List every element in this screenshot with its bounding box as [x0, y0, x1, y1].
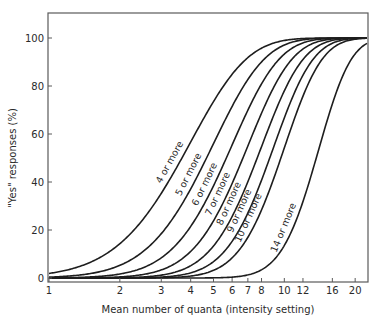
curve-labels: 4 or more5 or more6 or more7 or more8 or… — [153, 139, 298, 254]
x-tick-label: 6 — [229, 285, 235, 296]
x-tick-label: 7 — [245, 285, 251, 296]
y-tick-label: 40 — [31, 177, 44, 188]
x-tick-label: 2 — [117, 285, 123, 296]
y-tick-label: 60 — [31, 129, 44, 140]
x-tick-label: 1 — [46, 285, 52, 296]
curve-14-or-more — [49, 43, 367, 278]
x-tick-label: 10 — [278, 285, 291, 296]
y-tick-label: 80 — [31, 81, 44, 92]
curve-8-or-more — [49, 38, 367, 278]
x-tick-label: 20 — [349, 285, 362, 296]
x-tick-label: 8 — [258, 285, 264, 296]
x-tick-label: 16 — [326, 285, 339, 296]
y-axis-title: "Yes" responses (%) — [7, 108, 18, 208]
chart: 4 or more5 or more6 or more7 or more8 or… — [0, 0, 388, 324]
x-tick-label: 3 — [158, 285, 164, 296]
x-axis-title: Mean number of quanta (intensity setting… — [102, 304, 315, 315]
curve-5-or-more — [49, 38, 367, 277]
curve-6-or-more — [49, 38, 367, 278]
y-tick-label: 100 — [25, 33, 44, 44]
curve-7-or-more — [49, 38, 367, 278]
x-axis: 1234567810121620 — [46, 278, 362, 296]
y-tick-label: 0 — [38, 273, 44, 284]
x-tick-label: 4 — [187, 285, 193, 296]
x-tick-label: 5 — [210, 285, 216, 296]
curve-10-or-more — [49, 38, 367, 278]
curve-9-or-more — [49, 38, 367, 278]
y-tick-label: 20 — [31, 225, 44, 236]
curves — [49, 38, 367, 278]
x-tick-label: 12 — [297, 285, 310, 296]
